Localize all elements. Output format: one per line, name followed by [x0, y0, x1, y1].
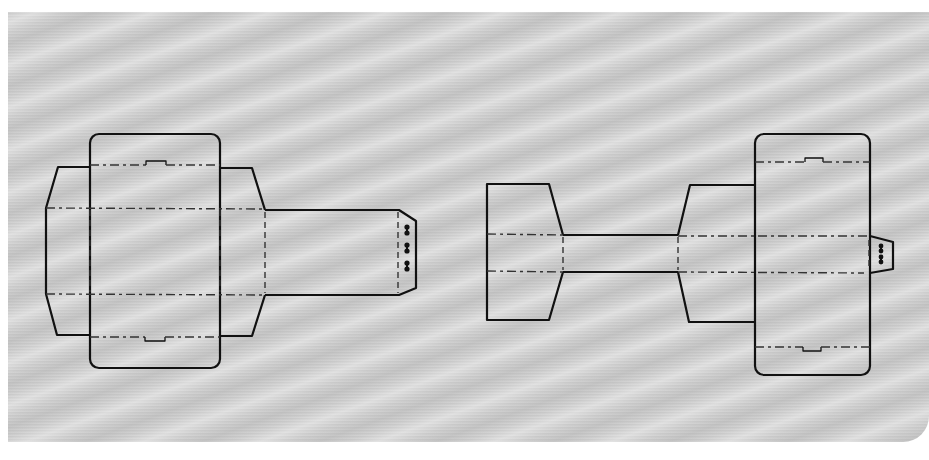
left-net-right-flap-top [220, 168, 265, 210]
left-net-lock-slots [404, 224, 409, 271]
fold-line [46, 208, 265, 209]
dieline-diagram [0, 0, 929, 460]
left-net-right-flap-bottom [220, 295, 265, 336]
right-net-main-panel [755, 134, 870, 375]
notch [146, 161, 166, 165]
notch [145, 337, 165, 341]
right-box-net [487, 134, 893, 375]
right-net-lock-slots [879, 244, 884, 265]
fold-line [46, 294, 265, 295]
left-net-main-panel [90, 134, 220, 368]
fold-line [487, 234, 563, 235]
notch [803, 347, 821, 351]
right-net-end-panel [487, 184, 563, 320]
left-box-net [46, 134, 416, 368]
left-net-left-flap [46, 167, 90, 335]
fold-line [678, 272, 864, 273]
left-net-tail-strip [265, 210, 416, 295]
right-net-trapezoid-bottom [678, 272, 755, 322]
right-net-lock-tab [870, 236, 893, 273]
fold-line [487, 271, 563, 272]
notch [805, 158, 823, 162]
right-net-trapezoid-top [678, 185, 755, 235]
